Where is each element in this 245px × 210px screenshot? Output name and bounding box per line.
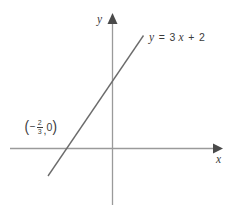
negative-sign: − xyxy=(30,122,36,132)
y-axis-label: y xyxy=(97,14,102,26)
equation-annotation: y = 3 x + 2 xyxy=(149,31,205,43)
function-line xyxy=(48,36,144,177)
x-axis-arrowhead xyxy=(213,144,223,154)
fraction-numerator: 2 xyxy=(37,119,43,126)
equation-slope-value: 3 xyxy=(170,31,176,43)
graph-canvas xyxy=(0,0,245,210)
fraction-two-thirds: 2 3 xyxy=(37,119,43,136)
equation-plus-sign: + xyxy=(187,31,196,43)
equation-lhs-variable: y xyxy=(149,31,154,43)
equation-equals-sign: = xyxy=(157,31,166,43)
open-paren: ( xyxy=(24,120,29,134)
fraction-denominator: 3 xyxy=(37,128,43,135)
equation-x-variable: x xyxy=(179,31,184,43)
x-axis-label: x xyxy=(216,154,221,166)
x-intercept-annotation: ( − 2 3 , 0 ) xyxy=(24,119,58,136)
linear-function-graph-figure: y x y = 3 x + 2 ( − 2 3 , 0 ) xyxy=(0,0,245,210)
y-axis-arrowhead xyxy=(108,13,118,24)
close-paren: ) xyxy=(53,120,58,134)
equation-intercept-value: 2 xyxy=(199,31,205,43)
